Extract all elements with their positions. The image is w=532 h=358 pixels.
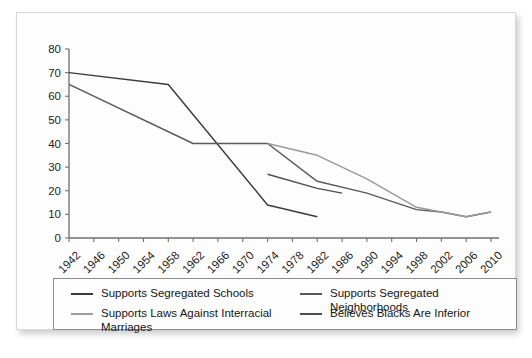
x-tick-label: 1954	[130, 249, 157, 276]
legend-item-supports-segregated-schools[interactable]: Supports Segregated Schools	[71, 286, 291, 300]
legend-item-label: Supports Laws Against Interracial Marria…	[101, 306, 291, 334]
x-tick-label: 1962	[180, 249, 207, 276]
chart-legend: Supports Segregated Schools Supports Law…	[53, 278, 517, 330]
y-tick-label: 70	[48, 67, 61, 79]
x-tick-label: 1990	[354, 249, 381, 276]
y-tick-label: 60	[48, 90, 61, 102]
legend-swatch-icon	[300, 313, 322, 315]
legend-swatch-icon	[71, 293, 93, 295]
x-tick-label: 1942	[56, 249, 83, 276]
x-tick-label: 2002	[428, 249, 455, 276]
screenshot-root: 01020304050607080 1942194619501954195819…	[0, 0, 532, 358]
legend-swatch-icon	[71, 313, 93, 315]
chart-series-line	[268, 174, 342, 193]
y-tick-label: 30	[48, 161, 61, 173]
chart-series-line	[69, 84, 491, 216]
x-tick-label: 1982	[304, 249, 331, 276]
legend-grid: Supports Segregated Schools Supports Law…	[54, 279, 516, 329]
x-tick-label: 1998	[403, 249, 430, 276]
legend-item-label: Believes Blacks Are Inferior	[330, 306, 470, 320]
legend-item-believes-blacks-are-inferior[interactable]: Believes Blacks Are Inferior	[300, 306, 518, 320]
x-tick-labels: 1942194619501954195819621966197019741978…	[56, 249, 505, 276]
x-tick-label: 1970	[230, 249, 257, 276]
chart-series-line	[268, 144, 491, 217]
legend-item-label: Supports Segregated Schools	[101, 286, 254, 300]
x-tick-label: 1994	[379, 249, 406, 276]
y-tick-label: 20	[48, 185, 61, 197]
x-tick-label: 1978	[279, 249, 306, 276]
x-tick-label: 1986	[329, 249, 356, 276]
x-tick-label: 1966	[205, 249, 232, 276]
x-tick-label: 1950	[105, 249, 132, 276]
y-tick-label: 10	[48, 208, 61, 220]
x-tick-label: 1958	[155, 249, 182, 276]
x-axis-group: 1942194619501954195819621966197019741978…	[56, 238, 505, 276]
y-tick-labels: 01020304050607080	[48, 43, 61, 244]
x-tick-label: 2006	[453, 249, 480, 276]
chart-series-group	[69, 73, 491, 217]
chart-series-line	[69, 73, 317, 217]
y-tick-label: 0	[55, 232, 61, 244]
x-tick-label: 2010	[478, 249, 505, 276]
legend-swatch-icon	[300, 293, 322, 295]
chart-card: 01020304050607080 1942194619501954195819…	[16, 12, 516, 330]
legend-item-supports-laws-against-interracial-marriages[interactable]: Supports Laws Against Interracial Marria…	[71, 306, 291, 334]
y-tick-label: 50	[48, 114, 61, 126]
y-tick-label: 40	[48, 138, 61, 150]
x-tick-label: 1946	[81, 249, 108, 276]
y-tick-label: 80	[48, 43, 61, 55]
y-axis-group: 01020304050607080	[48, 43, 69, 244]
x-tick-label: 1974	[254, 249, 281, 276]
